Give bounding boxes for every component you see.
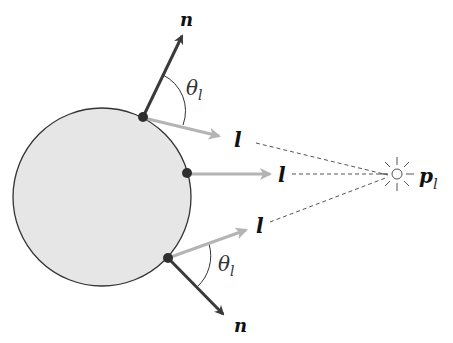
dashed-line-top: [256, 143, 388, 175]
normal-arrow-top: [143, 36, 182, 117]
label-light-middle: l: [278, 163, 286, 187]
surface-point-top: [138, 112, 148, 122]
surface-point-middle: [182, 168, 192, 178]
label-normal-bottom: n: [234, 315, 247, 336]
surface-point-bottom: [163, 253, 173, 263]
light-source-icon: [380, 157, 414, 191]
label-theta-top: θl: [186, 76, 203, 103]
theta-arc-top: [163, 75, 186, 125]
diagram-canvas: n n l l l θl θl pl: [0, 0, 453, 343]
dashed-line-bottom: [270, 177, 388, 222]
label-light-position: pl: [419, 164, 438, 193]
label-normal-top: n: [180, 9, 193, 30]
label-light-bottom: l: [256, 214, 264, 238]
normal-arrow-bottom: [168, 258, 223, 314]
label-light-top: l: [234, 128, 242, 152]
theta-arc-bottom: [197, 244, 211, 287]
label-theta-bottom: θl: [218, 252, 235, 279]
